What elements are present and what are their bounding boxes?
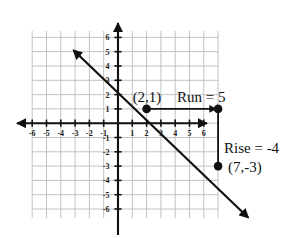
x-tick-label: 5 xyxy=(188,129,192,138)
x-tick-label: 2 xyxy=(145,129,149,138)
y-tick-label: 1 xyxy=(106,105,110,114)
coordinate-plane-svg: -6 -5 -4 -3 -2 -1 1 2 3 4 5 6 6 5 4 3 2 … xyxy=(0,0,292,238)
x-tick-label: -6 xyxy=(29,129,36,138)
x-tick-label: 6 xyxy=(202,129,206,138)
run-endpoint-marker[interactable] xyxy=(214,105,223,114)
y-tick-label: 4 xyxy=(106,62,110,71)
run-label: Run = 5 xyxy=(177,89,225,105)
point-label-start: (2,1) xyxy=(133,89,162,106)
x-tick-label: -3 xyxy=(72,129,79,138)
y-tick-label: -6 xyxy=(103,205,110,214)
y-tick-label: 2 xyxy=(106,91,110,100)
y-tick-label: 6 xyxy=(106,33,110,42)
rise-label: Rise = -4 xyxy=(224,140,280,156)
y-tick-label: 5 xyxy=(106,48,110,57)
y-tick-label: -4 xyxy=(103,176,110,185)
data-point-marker[interactable] xyxy=(142,105,151,114)
x-tick-label: 4 xyxy=(173,129,177,138)
y-tick-label: -2 xyxy=(103,148,110,157)
x-tick-label: -4 xyxy=(57,129,64,138)
x-tick-label: -2 xyxy=(86,129,93,138)
x-tick-label: -5 xyxy=(43,129,50,138)
data-point-marker[interactable] xyxy=(214,162,223,171)
y-tick-label: -1 xyxy=(103,134,110,143)
slope-graph-figure: -6 -5 -4 -3 -2 -1 1 2 3 4 5 6 6 5 4 3 2 … xyxy=(0,0,292,238)
point-label-end: (7,-3) xyxy=(228,159,262,176)
y-tick-label: -3 xyxy=(103,162,110,171)
x-tick-label: 1 xyxy=(130,129,134,138)
y-tick-label: -5 xyxy=(103,191,110,200)
